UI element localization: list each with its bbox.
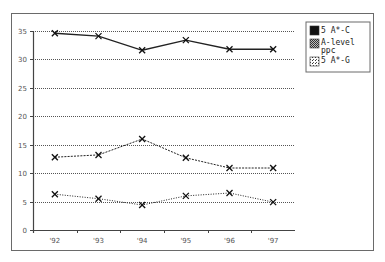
series-line: [55, 33, 273, 50]
x-marker-icon: [52, 154, 58, 160]
x-tick-label: '93: [93, 237, 104, 245]
y-tick-label: 10: [18, 170, 27, 178]
line-chart: 05101520253035 '92'93'94'95'96'97 5 A*-C…: [0, 0, 385, 262]
y-tick-label: 20: [18, 113, 27, 121]
x-marker-icon: [227, 165, 233, 171]
y-tick-label: 5: [23, 199, 27, 207]
legend-label: 5 A*-C: [321, 26, 350, 35]
x-marker-icon: [183, 155, 189, 161]
x-marker-icon: [139, 136, 145, 142]
legend-item: 5 A*-G: [310, 56, 350, 66]
gridlines: [33, 32, 295, 203]
y-tick-label: 0: [23, 227, 27, 235]
x-tick-label: '96: [224, 237, 235, 245]
legend: 5 A*-CA-levelppc5 A*-G: [306, 22, 370, 72]
legend-swatch-icon: [310, 26, 319, 35]
x-tick-label: '97: [268, 237, 279, 245]
y-tick-label: 35: [18, 28, 27, 36]
series-line: [55, 139, 273, 168]
legend-label: 5 A*-G: [321, 56, 350, 65]
x-tick-label: '94: [137, 237, 148, 245]
legend-swatch-icon: [310, 57, 319, 66]
data-series: [52, 30, 276, 208]
legend-swatch-icon: [310, 39, 319, 48]
legend-label: ppc: [321, 46, 336, 55]
series-5-a-g: [52, 190, 276, 208]
series-a-level-ppc: [52, 136, 276, 171]
x-tick-label: '92: [49, 237, 60, 245]
y-tick-labels: 05101520253035: [18, 28, 27, 235]
y-tick-label: 30: [18, 56, 27, 64]
x-tick-labels: '92'93'94'95'96'97: [49, 237, 278, 245]
series-line: [55, 193, 273, 205]
x-tick-label: '95: [180, 237, 191, 245]
series-5-a-c: [52, 30, 276, 53]
x-marker-icon: [52, 191, 58, 197]
legend-item: 5 A*-C: [310, 26, 350, 35]
y-tick-label: 15: [18, 142, 27, 150]
x-marker-icon: [96, 196, 102, 202]
y-tick-label: 25: [18, 85, 27, 93]
